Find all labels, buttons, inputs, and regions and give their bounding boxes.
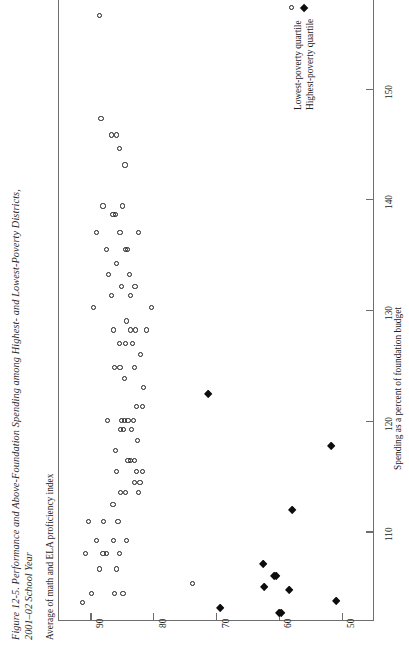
data-point-lowest-poverty <box>132 365 137 370</box>
y-axis-tick-label: 80 <box>158 619 168 628</box>
data-point-lowest-poverty <box>100 203 105 208</box>
data-point-lowest-poverty <box>97 566 102 571</box>
data-point-lowest-poverty <box>117 551 122 556</box>
y-axis-tick-label: 70 <box>221 619 231 628</box>
data-point-lowest-poverty <box>80 600 85 605</box>
x-axis-tick <box>366 199 373 200</box>
data-point-lowest-poverty <box>94 538 99 543</box>
x-axis-tick-label: 110 <box>384 528 394 542</box>
y-axis-tick <box>90 613 91 620</box>
data-point-highest-poverty <box>215 603 224 612</box>
data-point-lowest-poverty <box>136 490 141 495</box>
data-point-lowest-poverty <box>127 272 132 277</box>
data-point-lowest-poverty <box>134 404 139 409</box>
data-point-lowest-poverty <box>120 591 125 596</box>
y-axis-tick <box>342 613 343 620</box>
data-point-lowest-poverty <box>86 519 91 524</box>
data-point-lowest-poverty <box>133 327 138 332</box>
y-axis-tick-label: 90 <box>95 619 105 628</box>
data-point-lowest-poverty <box>112 591 117 596</box>
legend-open-circle-marker <box>289 5 294 10</box>
data-point-lowest-poverty <box>132 480 137 485</box>
data-point-lowest-poverty <box>138 352 143 357</box>
data-point-lowest-poverty <box>124 318 129 323</box>
data-point-lowest-poverty <box>101 519 106 524</box>
data-point-lowest-poverty <box>98 116 103 121</box>
x-axis-tick-label: 140 <box>384 195 394 209</box>
data-point-lowest-poverty <box>106 272 111 277</box>
data-point-lowest-poverty <box>128 293 133 298</box>
data-point-lowest-poverty <box>135 438 140 443</box>
data-point-lowest-poverty <box>114 261 119 266</box>
x-axis-label: Spending as a percent of foundation budg… <box>394 307 403 470</box>
data-point-lowest-poverty <box>115 519 120 524</box>
data-point-highest-poverty <box>327 442 336 451</box>
data-point-lowest-poverty <box>140 469 145 474</box>
data-point-lowest-poverty <box>132 284 137 289</box>
plot-area: 9080706050110120130140150 <box>59 0 373 620</box>
data-point-lowest-poverty <box>117 365 122 370</box>
data-point-highest-poverty <box>284 586 293 595</box>
data-point-lowest-poverty <box>149 305 154 310</box>
data-point-lowest-poverty <box>104 551 109 556</box>
data-point-highest-poverty <box>259 560 268 569</box>
data-point-lowest-poverty <box>136 230 141 235</box>
plot-frame: 9080706050110120130140150 <box>58 0 374 621</box>
data-point-lowest-poverty <box>134 469 139 474</box>
data-point-lowest-poverty <box>125 418 130 423</box>
data-point-lowest-poverty <box>144 327 149 332</box>
data-point-lowest-poverty <box>124 538 129 543</box>
data-point-lowest-poverty <box>91 305 96 310</box>
data-point-lowest-poverty <box>190 581 195 586</box>
data-point-lowest-poverty <box>104 247 109 252</box>
data-point-lowest-poverty <box>117 341 122 346</box>
data-point-highest-poverty <box>203 390 212 399</box>
data-point-lowest-poverty <box>113 212 118 217</box>
data-point-highest-poverty <box>332 597 341 606</box>
y-axis-tick <box>216 613 217 620</box>
data-point-lowest-poverty <box>111 538 116 543</box>
data-point-lowest-poverty <box>121 427 126 432</box>
y-axis-tick-label: 50 <box>346 619 356 628</box>
data-point-lowest-poverty <box>117 146 122 151</box>
data-point-lowest-poverty <box>110 502 115 507</box>
figure-page: Figure 12-5. Performance and Above-Found… <box>0 0 409 646</box>
data-point-lowest-poverty <box>131 418 136 423</box>
y-axis-label: Average of math and ELA proficiency inde… <box>46 474 55 640</box>
legend-label-lowest-poverty: Lowest-poverty quartile <box>293 20 303 110</box>
data-point-lowest-poverty <box>117 230 122 235</box>
data-point-lowest-poverty <box>122 376 127 381</box>
data-point-lowest-poverty <box>114 566 119 571</box>
data-point-lowest-poverty <box>113 448 118 453</box>
data-point-lowest-poverty <box>123 341 128 346</box>
x-axis-tick <box>366 531 373 532</box>
data-point-lowest-poverty <box>129 427 134 432</box>
data-point-lowest-poverty <box>94 230 99 235</box>
x-axis-tick <box>366 89 373 90</box>
data-point-lowest-poverty <box>83 551 88 556</box>
data-point-lowest-poverty <box>114 469 119 474</box>
figure-title-line-1: Figure 12-5. Performance and Above-Found… <box>11 189 21 640</box>
data-point-lowest-poverty <box>132 458 137 463</box>
y-axis-tick <box>153 613 154 620</box>
legend-filled-diamond-marker <box>300 4 309 13</box>
data-point-lowest-poverty <box>97 13 102 18</box>
x-axis-tick-label: 150 <box>384 85 394 99</box>
data-point-lowest-poverty <box>105 418 110 423</box>
data-point-highest-poverty <box>259 582 268 591</box>
data-point-lowest-poverty <box>122 162 127 167</box>
legend-label-highest-poverty: Highest-poverty quartile <box>305 19 315 110</box>
data-point-lowest-poverty <box>114 132 119 137</box>
x-axis-tick <box>366 421 373 422</box>
data-point-lowest-poverty <box>111 327 116 332</box>
data-point-lowest-poverty <box>130 341 135 346</box>
data-point-lowest-poverty <box>125 247 130 252</box>
data-point-lowest-poverty <box>137 480 142 485</box>
x-axis-tick <box>366 310 373 311</box>
data-point-lowest-poverty <box>120 203 125 208</box>
data-point-highest-poverty <box>288 506 297 515</box>
data-point-lowest-poverty <box>119 284 124 289</box>
data-point-lowest-poverty <box>140 404 145 409</box>
data-point-lowest-poverty <box>109 293 114 298</box>
data-point-lowest-poverty <box>89 591 94 596</box>
